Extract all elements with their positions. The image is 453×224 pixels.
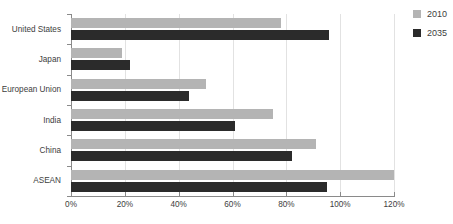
y-axis-label: China <box>0 135 66 165</box>
y-axis-category-labels: United StatesJapanEuropean UnionIndiaChi… <box>0 14 66 196</box>
x-axis-tick-label: 0% <box>65 200 77 209</box>
plot-area <box>71 14 394 196</box>
bar-row <box>71 75 394 105</box>
y-axis-label: European Union <box>0 75 66 105</box>
bar-2035 <box>71 182 327 192</box>
y-axis-tick <box>67 44 71 45</box>
bar-2035 <box>71 121 235 131</box>
bar-chart: United StatesJapanEuropean UnionIndiaChi… <box>0 0 453 224</box>
x-axis-tick <box>233 192 234 197</box>
legend-swatch-icon <box>413 29 421 37</box>
y-axis-tick <box>67 166 71 167</box>
x-axis-tick-label: 120% <box>384 200 405 209</box>
gridline <box>394 14 395 196</box>
y-axis-label: India <box>0 105 66 135</box>
x-axis-tick-label: 80% <box>278 200 294 209</box>
chart-legend: 20102035 <box>413 9 447 38</box>
x-axis-tick-label: 40% <box>170 200 186 209</box>
bar-2010 <box>71 139 316 149</box>
bar-row <box>71 14 394 44</box>
bar-rows <box>71 14 394 196</box>
bar-2035 <box>71 91 189 101</box>
bar-row <box>71 135 394 165</box>
y-axis-label: United States <box>0 14 66 44</box>
legend-item[interactable]: 2010 <box>413 9 447 19</box>
bar-2010 <box>71 109 273 119</box>
x-axis-tick-labels: 0%20%40%60%80%100%120% <box>0 200 453 216</box>
y-axis-tick <box>67 105 71 106</box>
y-axis-tick <box>67 135 71 136</box>
x-axis-tick <box>394 192 395 197</box>
y-axis-tick <box>67 75 71 76</box>
bar-2035 <box>71 60 130 70</box>
legend-swatch-icon <box>413 10 421 18</box>
bar-2010 <box>71 79 206 89</box>
legend-label: 2010 <box>427 9 447 19</box>
x-axis-tick <box>179 192 180 197</box>
x-axis-tick <box>125 192 126 197</box>
x-axis-tick-label: 100% <box>330 200 351 209</box>
legend-label: 2035 <box>427 28 447 38</box>
y-axis-label: Japan <box>0 44 66 74</box>
bar-row <box>71 105 394 135</box>
bar-2010 <box>71 170 394 180</box>
x-axis-tick-label: 60% <box>224 200 240 209</box>
bar-2010 <box>71 48 122 58</box>
bar-2035 <box>71 151 292 161</box>
bar-2010 <box>71 18 281 28</box>
x-axis-tick-label: 20% <box>117 200 133 209</box>
bar-2035 <box>71 30 329 40</box>
legend-item[interactable]: 2035 <box>413 28 447 38</box>
bar-row <box>71 44 394 74</box>
x-axis-tick <box>71 192 72 197</box>
x-axis-tick <box>286 192 287 197</box>
y-axis-label: ASEAN <box>0 166 66 196</box>
x-axis-tick <box>340 192 341 197</box>
y-axis-tick <box>67 14 71 15</box>
